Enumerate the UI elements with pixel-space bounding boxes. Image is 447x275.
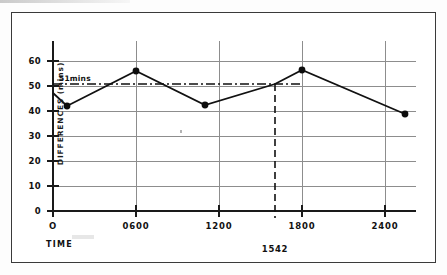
data-series-line [53,70,405,114]
data-point [299,67,306,74]
chart-figure: 60 50 40 30 20 10 0 DIFFERENCES (mins) O… [0,0,447,275]
y-tick-label-50: 50 [15,81,41,91]
x-tick-label-1200: 1200 [189,221,249,231]
scan-artifact-top [0,0,130,3]
event-marker-label-1542: 1542 [245,244,305,254]
data-point [402,111,409,118]
horizontal-gridlines [53,61,416,186]
chart-frame: 60 50 40 30 20 10 0 DIFFERENCES (mins) O… [11,12,436,263]
scan-speck [180,130,182,133]
data-point [133,68,140,75]
y-tick-label-20: 20 [15,156,41,166]
data-point [202,102,209,109]
x-tick-label-0600: 0600 [106,221,166,231]
y-tick-label-40: 40 [15,106,41,116]
x-axis-title: TIME [46,240,73,249]
data-point [64,103,71,110]
y-tick-label-60: 60 [15,56,41,66]
y-axis-title: DIFFERENCES (mins) [56,54,65,174]
x-tick-label-0: O [23,221,83,231]
y-tick-label-30: 30 [15,131,41,141]
y-tick-label-0: 0 [15,206,41,216]
data-point-markers [64,67,409,118]
y-tick-label-10: 10 [15,181,41,191]
x-tick-label-2400: 2400 [355,221,415,231]
x-tick-label-1800: 1800 [272,221,332,231]
scan-smudge [72,235,94,239]
reference-line-label: 51mins [59,74,91,83]
